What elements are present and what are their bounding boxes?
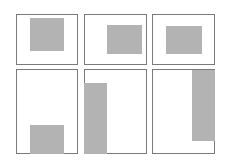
panel-fill-rect-2	[107, 25, 142, 54]
panel-fill-rect-4	[30, 125, 64, 154]
panel-fill-rect-1	[30, 18, 64, 51]
panel-fill-rect-3	[166, 26, 202, 54]
panel-fill-rect-5	[84, 83, 107, 154]
panel-fill-rect-6	[192, 70, 215, 141]
